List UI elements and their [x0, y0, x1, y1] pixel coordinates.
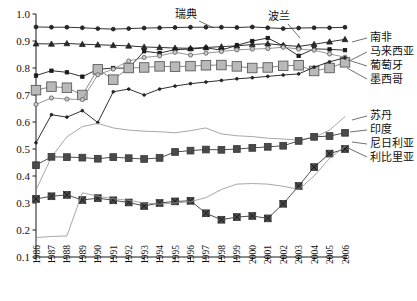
- data-point: [110, 154, 117, 161]
- data-point: [64, 154, 71, 161]
- data-point: [158, 26, 162, 30]
- data-point: [172, 149, 179, 156]
- data-point: [219, 49, 223, 53]
- data-point: [250, 47, 254, 51]
- data-point: [201, 61, 211, 71]
- y-tick-label: 0.4: [16, 170, 30, 182]
- x-tick-label: 1991: [109, 245, 119, 264]
- x-tick-label: 1988: [62, 245, 72, 264]
- x-tick-label: 2000: [248, 245, 258, 264]
- data-point: [80, 26, 84, 30]
- data-point: [96, 73, 100, 77]
- annotation-leader-7: [350, 130, 367, 132]
- x-tick-label: 1987: [47, 245, 57, 264]
- data-point: [65, 71, 68, 74]
- data-point: [204, 46, 207, 49]
- data-point: [34, 102, 38, 106]
- data-point: [139, 63, 149, 73]
- data-point: [328, 60, 331, 63]
- data-point: [297, 54, 300, 57]
- series-label-0: 瑞典: [175, 7, 197, 21]
- data-point: [203, 146, 210, 153]
- annotation-leader-9: [348, 148, 367, 157]
- series-layer: [31, 25, 350, 238]
- y-tick-label: 0.1: [16, 251, 30, 263]
- data-point: [265, 41, 271, 46]
- data-point: [249, 145, 256, 152]
- x-tick-label: 2005: [325, 245, 335, 264]
- y-tick-label: 0.7: [16, 89, 30, 101]
- data-point: [233, 146, 240, 153]
- data-point: [156, 155, 163, 162]
- y-tick-label: 0.6: [16, 116, 30, 128]
- data-point: [80, 98, 84, 102]
- data-point: [65, 25, 69, 29]
- data-point: [264, 143, 271, 150]
- x-tick-label: 2002: [279, 245, 289, 264]
- data-point: [281, 27, 285, 31]
- annotation-leader-6: [352, 116, 367, 120]
- data-point: [342, 36, 348, 41]
- series-label-8: 尼日利亚: [370, 137, 414, 150]
- data-point: [251, 39, 254, 42]
- data-point: [34, 25, 38, 29]
- y-tick-label: 1.0: [16, 8, 30, 20]
- data-point: [173, 26, 177, 30]
- data-point: [49, 96, 53, 100]
- data-point: [263, 63, 273, 73]
- data-point: [170, 62, 180, 72]
- data-point: [344, 56, 347, 59]
- line-chart: 0.10.20.30.40.50.60.70.80.91.0 198619871…: [0, 0, 417, 301]
- data-point: [125, 155, 132, 162]
- y-tick-label: 0.2: [16, 224, 30, 236]
- data-point: [297, 73, 300, 76]
- data-point: [33, 162, 40, 169]
- data-point: [278, 61, 288, 70]
- x-tick-label: 1986: [32, 245, 42, 264]
- x-tick-label: 1990: [93, 245, 103, 264]
- data-point: [205, 81, 208, 84]
- data-point: [294, 61, 304, 71]
- data-point: [142, 50, 145, 53]
- data-point: [186, 61, 196, 71]
- data-point: [295, 138, 302, 145]
- data-point: [219, 25, 223, 29]
- data-point: [127, 27, 131, 31]
- data-point: [235, 48, 239, 52]
- x-tick-label: 2001: [263, 245, 273, 264]
- x-tick-label: 1989: [78, 245, 88, 264]
- data-point: [204, 51, 208, 55]
- series-label-4: 葡萄牙: [370, 59, 403, 72]
- annotation-leader-5: [347, 68, 367, 79]
- data-point: [189, 82, 192, 85]
- data-point: [325, 63, 335, 73]
- series-label-6: 苏丹: [370, 109, 392, 122]
- annotation-leader-3: [351, 52, 367, 60]
- data-point: [189, 47, 192, 50]
- data-point: [232, 62, 242, 72]
- data-point: [173, 50, 177, 54]
- data-point: [281, 45, 285, 49]
- data-point: [111, 27, 115, 31]
- data-point: [204, 25, 208, 29]
- data-point: [96, 27, 100, 31]
- series-0: [34, 25, 347, 31]
- x-axis: 1986198719881989199019911992199319941995…: [32, 245, 351, 264]
- data-point: [343, 25, 347, 29]
- data-point: [127, 59, 131, 63]
- data-point: [217, 60, 227, 70]
- data-point: [235, 77, 238, 80]
- data-point: [158, 54, 162, 58]
- data-point: [94, 155, 101, 162]
- data-point: [35, 141, 38, 144]
- data-point: [127, 88, 130, 91]
- data-point: [34, 74, 37, 77]
- data-point: [328, 26, 332, 30]
- data-point: [111, 67, 115, 71]
- data-point: [79, 154, 86, 161]
- data-point: [65, 97, 69, 101]
- data-point: [312, 48, 316, 52]
- x-tick-label: 1999: [232, 245, 242, 264]
- y-tick-label: 0.5: [16, 143, 30, 155]
- data-point: [50, 69, 53, 72]
